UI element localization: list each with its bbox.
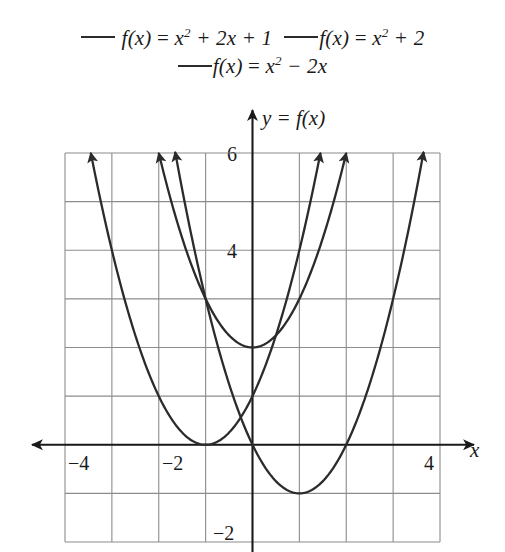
coordinate-plane xyxy=(0,0,505,552)
axis-lines xyxy=(32,110,474,552)
parabola-curves xyxy=(91,152,424,493)
